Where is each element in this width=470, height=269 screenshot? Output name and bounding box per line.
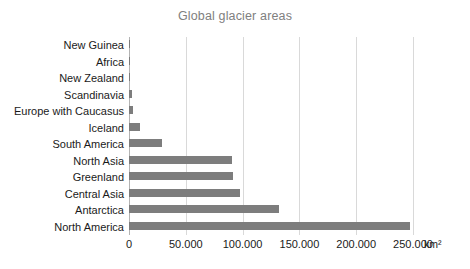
x-tick-label: 50.000	[169, 238, 203, 251]
category-label: New Guinea	[63, 39, 124, 51]
x-tick-label: 200.000	[336, 238, 376, 251]
x-tick-label: 100.000	[223, 238, 263, 251]
bar[interactable]	[129, 205, 279, 213]
category-label: South America	[52, 138, 124, 150]
bar[interactable]	[129, 73, 130, 81]
bar[interactable]	[129, 172, 233, 180]
bar-row[interactable]	[129, 37, 413, 54]
category-label: Scandinavia	[64, 89, 124, 101]
bar[interactable]	[129, 123, 140, 131]
bar-row[interactable]	[129, 87, 413, 104]
category-label: North Asia	[73, 155, 124, 167]
x-axis-ticks: 050.000100.000150.000200.000250.000km²	[0, 238, 470, 258]
bar-row[interactable]	[129, 70, 413, 87]
bar-row[interactable]	[129, 103, 413, 120]
category-label: Africa	[96, 56, 124, 68]
bar[interactable]	[129, 57, 130, 65]
bar-chart: Global glacier areas New GuineaAfricaNew…	[0, 0, 470, 269]
bar-row[interactable]	[129, 186, 413, 203]
bar-row[interactable]	[129, 54, 413, 71]
category-label: Europe with Caucasus	[14, 105, 124, 117]
category-label: Antarctica	[75, 204, 124, 216]
x-tick-label: 0	[126, 238, 132, 251]
unit-label: km²	[424, 238, 442, 251]
bar[interactable]	[129, 189, 240, 197]
bar[interactable]	[129, 90, 132, 98]
category-axis: New GuineaAfricaNew ZealandScandinaviaEu…	[0, 37, 124, 235]
x-tick-label: 150.000	[280, 238, 320, 251]
category-label: Iceland	[89, 122, 124, 134]
bar-row[interactable]	[129, 153, 413, 170]
bar-row[interactable]	[129, 169, 413, 186]
bar-row[interactable]	[129, 219, 413, 236]
bar[interactable]	[129, 139, 162, 147]
plot-area	[129, 37, 413, 235]
bar-row[interactable]	[129, 120, 413, 137]
category-label: Greenland	[73, 171, 124, 183]
bar[interactable]	[129, 156, 232, 164]
chart-title: Global glacier areas	[0, 9, 470, 23]
category-label: North America	[54, 221, 124, 233]
bar-row[interactable]	[129, 202, 413, 219]
category-label: New Zealand	[59, 72, 124, 84]
gridline	[413, 37, 414, 235]
bar[interactable]	[129, 106, 133, 114]
bar[interactable]	[129, 40, 130, 48]
bar[interactable]	[129, 222, 410, 230]
category-label: Central Asia	[65, 188, 124, 200]
bar-row[interactable]	[129, 136, 413, 153]
